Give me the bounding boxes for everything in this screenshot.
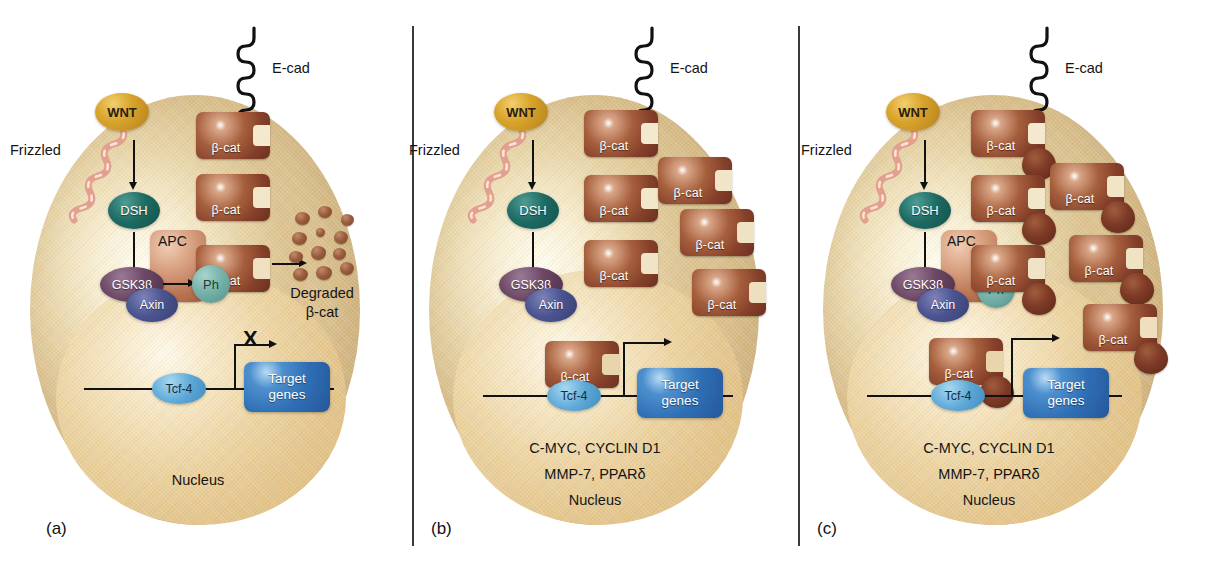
beta-catenin-label: β-cat	[196, 203, 256, 217]
panel-b: E-cad Frizzled WNT DSH GSK3β Axin β-cat	[405, 0, 795, 571]
beta-catenin-label: β-cat	[584, 139, 644, 153]
panel-a: E-cad Frizzled WNT DSH APC β-cat	[0, 0, 405, 571]
degradation-line-a	[272, 263, 300, 265]
dsh-label-b: DSH	[519, 203, 546, 218]
dsh-inhibit-line-b	[532, 232, 534, 270]
beta-catenin-label: β-cat	[658, 186, 718, 200]
target-gene-list-line1-b: C-MYC, CYCLIN D1	[529, 440, 660, 456]
frizzled-label-c: Frizzled	[801, 142, 852, 158]
panel-letter-c: (c)	[817, 519, 837, 539]
nucleus-label-a: Nucleus	[172, 472, 224, 488]
ph-label-a: Ph	[203, 277, 219, 292]
wnt-protein-b: WNT	[494, 93, 548, 131]
wnt-protein-c: WNT	[886, 93, 940, 131]
tcf4-label-b: Tcf-4	[560, 389, 587, 403]
dsh-label-a: DSH	[120, 203, 147, 218]
frizzled-label-b: Frizzled	[409, 142, 460, 158]
dsh-label-c: DSH	[911, 203, 938, 218]
beta-catenin-label: β-cat	[1050, 192, 1110, 206]
target-genes-box-a: Targetgenes	[244, 362, 330, 412]
beta-catenin-label: β-cat	[584, 204, 644, 218]
target-genes-label-c: Targetgenes	[1047, 377, 1085, 409]
transcription-arrowhead-b	[664, 338, 672, 346]
tcf4-label-a: Tcf-4	[165, 382, 192, 396]
e-cad-label-b: E-cad	[670, 60, 708, 76]
tcf4-protein-c: Tcf-4	[931, 380, 985, 411]
tcf4-label-c: Tcf-4	[944, 389, 971, 403]
beta-catenin-label: β-cat	[196, 141, 256, 155]
tcf4-protein-b: Tcf-4	[547, 380, 601, 411]
wnt-label-a: WNT	[107, 105, 137, 120]
target-genes-label-a: Targetgenes	[268, 371, 306, 403]
beta-catenin-label: β-cat	[1069, 264, 1129, 278]
transcription-hline-c	[1011, 338, 1053, 340]
axin-protein-b: Axin	[525, 288, 577, 322]
wnt-label-c: WNT	[898, 105, 928, 120]
wnt-protein-a: WNT	[95, 93, 149, 131]
beta-catenin-b-3: β-cat	[584, 240, 658, 287]
beta-catenin-label: β-cat	[929, 367, 989, 381]
transcription-arrowhead-c	[1052, 334, 1060, 342]
tcf4-protein-a: Tcf-4	[152, 373, 206, 404]
transcription-vline-c	[1011, 338, 1013, 396]
transcription-arrowhead-a	[269, 340, 277, 348]
e-cad-label-c: E-cad	[1065, 60, 1103, 76]
target-gene-list-line1-c: C-MYC, CYCLIN D1	[923, 440, 1054, 456]
degraded-label-line2-a: β-cat	[306, 304, 339, 320]
target-gene-list-line2-c: MMP-7, PPARδ	[938, 466, 1039, 482]
dsh-protein-a: DSH	[108, 192, 160, 229]
beta-catenin-a-1: β-cat	[196, 112, 270, 159]
transcription-vline-b	[623, 342, 625, 396]
dsh-inhibit-line-a	[133, 232, 135, 270]
nucleus-label-b: Nucleus	[569, 492, 621, 508]
axin-label-b: Axin	[539, 298, 563, 312]
beta-catenin-b-2: β-cat	[584, 175, 658, 222]
beta-catenin-label: β-cat	[1083, 333, 1143, 347]
wnt-to-dsh-arrowhead-a	[129, 182, 137, 190]
target-genes-label-b: Targetgenes	[661, 377, 699, 409]
panel-letter-a: (a)	[46, 519, 67, 539]
target-genes-box-c: Targetgenes	[1023, 368, 1109, 418]
beta-catenin-a-2: β-cat	[196, 174, 270, 221]
wnt-to-dsh-arrowhead-c	[920, 182, 928, 190]
beta-catenin-label: β-cat	[680, 238, 740, 252]
panel-letter-b: (b)	[431, 519, 452, 539]
frizzled-label-a: Frizzled	[10, 142, 61, 158]
axin-label-c: Axin	[931, 298, 955, 312]
transcription-blocked-x-a: X	[243, 328, 258, 350]
wnt-to-dsh-arrowhead-b	[528, 182, 536, 190]
beta-catenin-c-1: β-cat	[971, 110, 1045, 157]
dsh-protein-c: DSH	[899, 192, 951, 229]
beta-catenin-c-5: β-cat	[1069, 235, 1143, 282]
beta-catenin-c-3: β-cat	[971, 245, 1045, 292]
beta-catenin-label: β-cat	[584, 269, 644, 283]
ph-protein-a: Ph	[192, 265, 230, 303]
axin-protein-c: Axin	[917, 288, 969, 322]
beta-catenin-b-5: β-cat	[680, 209, 754, 256]
target-gene-list-line2-b: MMP-7, PPARδ	[544, 466, 645, 482]
transcription-hline-b	[623, 342, 665, 344]
wnt-to-dsh-line-c	[924, 140, 926, 184]
axin-protein-a: Axin	[126, 288, 178, 322]
beta-catenin-b-1: β-cat	[584, 110, 658, 157]
beta-catenin-c-6: β-cat	[1083, 304, 1157, 351]
beta-catenin-b-6: β-cat	[692, 269, 766, 316]
dsh-inhibit-line-c	[924, 232, 926, 270]
beta-catenin-label: β-cat	[971, 274, 1031, 288]
wnt-to-dsh-line-b	[532, 140, 534, 184]
transcription-vline-a	[234, 344, 236, 389]
figure-canvas: E-cad Frizzled WNT DSH APC β-cat	[0, 0, 1214, 571]
beta-catenin-label: β-cat	[692, 298, 752, 312]
degraded-label-line1-a: Degraded	[290, 285, 354, 301]
axin-label-a: Axin	[140, 298, 164, 312]
beta-catenin-c-4: β-cat	[1050, 163, 1124, 210]
dsh-protein-b: DSH	[507, 192, 559, 229]
beta-catenin-label: β-cat	[971, 204, 1031, 218]
nucleus-label-c: Nucleus	[963, 492, 1015, 508]
wnt-label-b: WNT	[506, 105, 536, 120]
beta-catenin-c-2: β-cat	[971, 175, 1045, 222]
e-cad-label-a: E-cad	[272, 60, 310, 76]
beta-catenin-b-4: β-cat	[658, 157, 732, 204]
beta-catenin-label: β-cat	[971, 139, 1031, 153]
beta-catenin-c-nuclear: β-cat	[929, 338, 1003, 385]
